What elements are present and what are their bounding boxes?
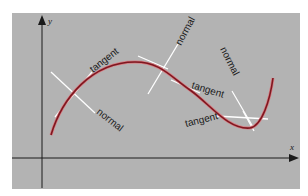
normal-label-2: normal [173, 15, 197, 47]
y-axis-label: y [47, 16, 52, 26]
normal-line-3 [232, 91, 253, 127]
tangent-normal-lines [51, 44, 268, 131]
y-axis-arrow-icon [38, 15, 46, 25]
normal-label-3: normal [218, 45, 242, 77]
tangent-label-3: tangent [184, 110, 219, 129]
normal-label-1: normal [95, 106, 126, 133]
x-axis-arrow-icon [289, 154, 299, 162]
tangent-label-2: tangent [190, 79, 225, 99]
axes [12, 15, 299, 188]
diagram-canvas: y x tangent normal normal tangent normal… [0, 0, 308, 196]
x-axis-label: x [289, 142, 294, 152]
